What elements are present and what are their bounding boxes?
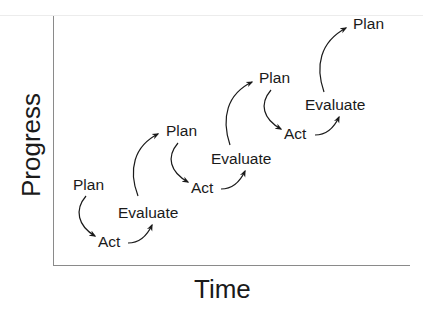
cycle-3-evaluate: Evaluate bbox=[305, 97, 365, 113]
cycle-3-act: Act bbox=[284, 126, 306, 142]
arrow-plan-to-act-3 bbox=[264, 90, 281, 129]
cycle-2-evaluate: Evaluate bbox=[211, 151, 271, 167]
y-axis-label: Progress bbox=[17, 93, 45, 197]
arrow-evaluate-to-plan-3 bbox=[320, 28, 346, 92]
arrow-act-to-evaluate-2 bbox=[221, 171, 245, 189]
cycle-2-act: Act bbox=[191, 180, 213, 196]
x-axis-label: Time bbox=[194, 275, 251, 303]
cycle-1-act: Act bbox=[98, 234, 120, 250]
cycle-3-plan: Plan bbox=[259, 70, 290, 86]
cycle-2-plan: Plan bbox=[166, 123, 197, 139]
arrow-act-to-evaluate-3 bbox=[315, 117, 339, 135]
arrow-plan-to-act-2 bbox=[171, 143, 188, 182]
cycle-1-evaluate: Evaluate bbox=[118, 205, 178, 221]
arrow-act-to-evaluate-1 bbox=[128, 225, 152, 243]
arrow-evaluate-to-plan-1 bbox=[133, 134, 158, 196]
arrow-plan-to-act-1 bbox=[79, 196, 95, 236]
arrow-evaluate-to-plan-2 bbox=[226, 82, 252, 145]
final-plan: Plan bbox=[353, 16, 384, 32]
cycle-1-plan: Plan bbox=[73, 177, 104, 193]
